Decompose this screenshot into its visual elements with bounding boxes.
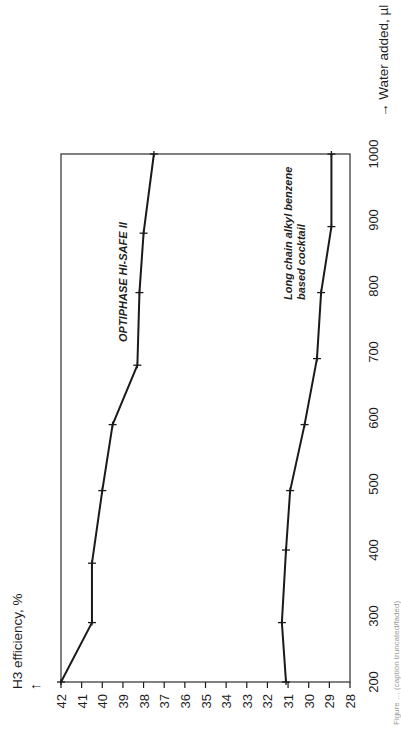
x-tick-label: 200 — [366, 671, 381, 693]
x-tick-label: 1000 — [366, 140, 381, 169]
x-tick-label: 300 — [366, 605, 381, 627]
y-tick-label: 32 — [260, 694, 275, 708]
y-tick-label: 31 — [281, 694, 296, 708]
x-tick-label: 500 — [366, 473, 381, 495]
y-axis-arrow-icon: ↑ — [27, 683, 43, 690]
series-label-alkyl-benzene-line1: Long chain alkyl benzene — [282, 167, 294, 300]
x-tick-label: 400 — [366, 539, 381, 561]
figure-caption: Figure … (caption truncated/faded) — [392, 601, 401, 725]
series-label-optiphase: OPTIPHASE HI-SAFE II — [117, 221, 129, 342]
y-tick-label: 36 — [178, 694, 193, 708]
x-tick-label: 700 — [366, 341, 381, 363]
y-tick-label: 40 — [95, 694, 110, 708]
y-axis-title: H3 efficiency, % — [10, 593, 25, 689]
y-tick-label: 34 — [219, 694, 234, 708]
y-tick-label: 42 — [54, 694, 69, 708]
y-tick-label: 38 — [137, 694, 152, 708]
y-tick-label: 30 — [302, 694, 317, 708]
y-tick-label: 28 — [343, 694, 358, 708]
y-tick-label: 33 — [240, 694, 255, 708]
chart-container: 4241403938373635343332313029282003004005… — [0, 0, 401, 731]
y-tick-label: 41 — [75, 694, 90, 708]
y-tick-label: 29 — [322, 694, 337, 708]
y-tick-label: 39 — [116, 694, 131, 708]
x-axis-title: → Water added, µl — [376, 5, 391, 117]
x-tick-label: 800 — [366, 275, 381, 297]
y-tick-label: 37 — [157, 694, 172, 708]
line-chart: 4241403938373635343332313029282003004005… — [0, 0, 401, 731]
x-tick-label: 900 — [366, 209, 381, 231]
x-tick-label: 600 — [366, 407, 381, 429]
series-label-alkyl-benzene-line2: based cocktail — [295, 223, 307, 300]
labels: H3 efficiency, % ↑ → Water added, µl OPT… — [10, 5, 401, 725]
y-tick-label: 35 — [199, 694, 214, 708]
